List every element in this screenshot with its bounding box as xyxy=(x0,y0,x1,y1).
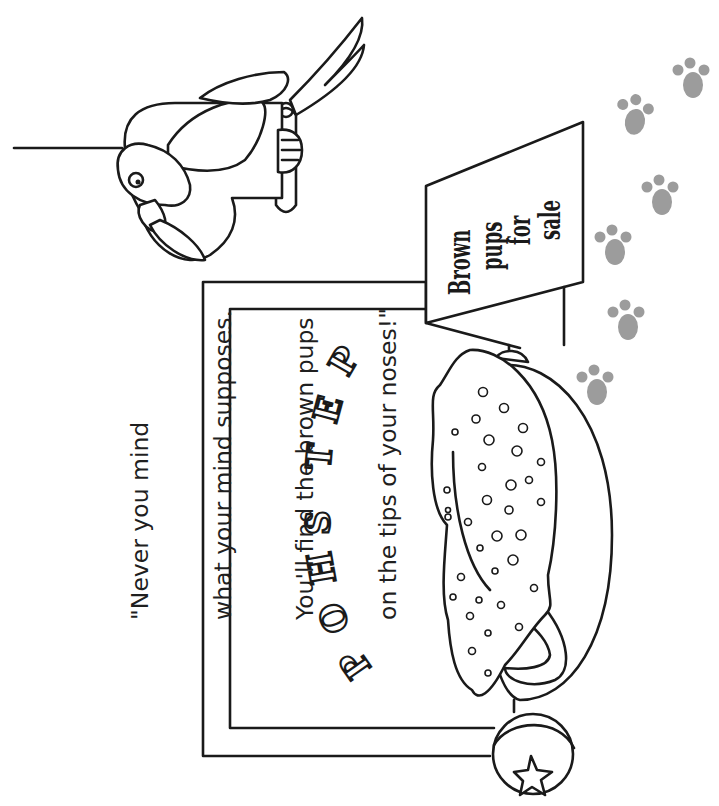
shop-letter-p2: P xyxy=(331,642,378,686)
parrot-pupil xyxy=(136,180,141,185)
quote-line-1: "Never you mind xyxy=(127,308,155,620)
paw-prints xyxy=(577,58,710,406)
parrot-tail xyxy=(290,18,364,115)
sign-line-1: Brown xyxy=(442,230,477,295)
dog-basket xyxy=(432,350,612,700)
quote-line-4: on the tips of your noses!" xyxy=(375,308,403,620)
paw-print xyxy=(595,225,632,266)
paw-print xyxy=(673,58,710,99)
star-ball xyxy=(493,700,574,795)
for-sale-sign: Brown pups for sale xyxy=(426,122,583,358)
rhyme-quote: "Never you mind what your mind supposes.… xyxy=(72,308,430,620)
paw-print xyxy=(642,175,679,216)
paw-print xyxy=(608,300,645,341)
paw-print xyxy=(577,365,614,406)
quote-line-2: what your mind supposes. xyxy=(210,308,238,620)
parrot-wing-top xyxy=(200,72,288,104)
paw-print xyxy=(612,91,655,137)
quote-line-3: You'll find the brown pups xyxy=(292,308,320,620)
sign-line-4: sale xyxy=(532,200,567,240)
parrot xyxy=(118,18,364,260)
